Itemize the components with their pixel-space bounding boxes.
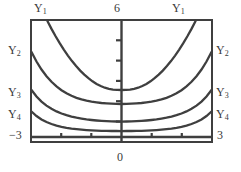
label-y4-right: Y4 (216, 108, 229, 120)
label-y2-right: Y2 (216, 44, 229, 56)
graph-figure: Y1 6 Y1 Y2 Y3 Y4 −3 Y2 Y3 Y4 3 0 (0, 0, 241, 172)
y-axis (116, 20, 122, 141)
label-y1-right: Y1 (172, 2, 185, 14)
label-x-min: −3 (9, 129, 22, 141)
label-x-max: 3 (217, 129, 223, 141)
label-y4-left: Y4 (8, 108, 21, 120)
label-origin: 0 (117, 151, 123, 163)
label-y3-right: Y3 (216, 86, 229, 98)
label-y1-left: Y1 (34, 2, 47, 14)
label-y2-left: Y2 (8, 44, 21, 56)
y-axis-ticks (116, 40, 121, 121)
label-y3-left: Y3 (8, 86, 21, 98)
label-y-max: 6 (114, 2, 120, 14)
plot-area (30, 19, 213, 143)
